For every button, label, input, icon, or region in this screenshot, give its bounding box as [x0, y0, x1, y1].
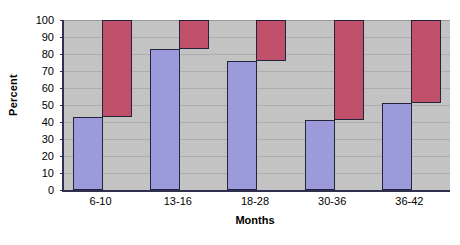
- bar-blue: [150, 49, 180, 190]
- x-axis-tick-label: 13-16: [164, 195, 192, 207]
- y-axis-tick-labels: 0102030405060708090100: [24, 20, 57, 190]
- y-axis-title: Percent: [2, 0, 24, 190]
- y-axis-tick-label: 40: [42, 117, 54, 128]
- y-axis-tickmark: [60, 190, 64, 191]
- y-axis-tick-label: 10: [42, 168, 54, 179]
- bar-blue: [73, 117, 103, 190]
- bar-red: [256, 20, 286, 61]
- y-axis-title-label: Percent: [7, 74, 19, 116]
- bar-group: [373, 20, 450, 190]
- y-axis-tick-label: 90: [42, 32, 54, 43]
- bar-red: [334, 20, 364, 120]
- bar-red: [411, 20, 441, 103]
- y-axis-tick-label: 30: [42, 134, 54, 145]
- y-axis-tick-label: 20: [42, 151, 54, 162]
- bar-red: [102, 20, 132, 117]
- bar-group: [64, 20, 141, 190]
- y-axis-tick-label: 100: [36, 15, 54, 26]
- x-axis-title: Months: [62, 214, 448, 226]
- y-axis-tick-label: 50: [42, 100, 54, 111]
- bar-red: [179, 20, 209, 49]
- plot-inner: [64, 20, 450, 190]
- bar-blue: [227, 61, 257, 190]
- bar-group: [296, 20, 373, 190]
- x-axis-tick-label: 36-42: [395, 195, 423, 207]
- y-axis-tick-label: 0: [48, 185, 54, 196]
- bar-blue: [305, 120, 335, 190]
- bar-blue: [382, 103, 412, 190]
- y-axis-tick-label: 60: [42, 83, 54, 94]
- plot-area: [62, 20, 450, 192]
- y-axis-tick-label: 80: [42, 49, 54, 60]
- bar-chart: Percent 0102030405060708090100 6-1013-16…: [0, 0, 460, 245]
- y-axis-tick-label: 70: [42, 66, 54, 77]
- bar-group: [141, 20, 218, 190]
- x-axis-tick-label: 6-10: [90, 195, 112, 207]
- x-axis-tick-labels: 6-1013-1618-2830-3636-42: [62, 193, 448, 213]
- bar-group: [218, 20, 295, 190]
- x-axis-tick-label: 18-28: [241, 195, 269, 207]
- x-axis-tick-label: 30-36: [318, 195, 346, 207]
